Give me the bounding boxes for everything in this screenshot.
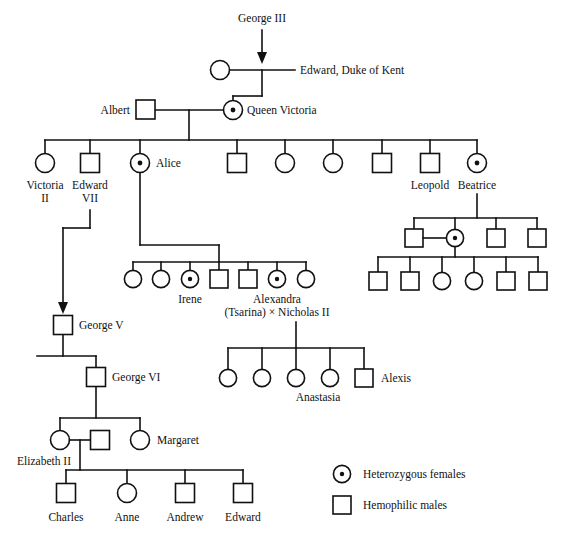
label-george-v: George V <box>79 319 124 332</box>
symbol-circle-elizabeth-ii <box>51 431 70 450</box>
symbol-square-hatched-leopold <box>421 154 440 173</box>
legend-label-heterozygous-females: Heterozygous females <box>363 468 466 481</box>
label-victoria-ii-line2: II <box>41 192 49 204</box>
romanov-children-group: Anastasia Alexis <box>219 348 411 403</box>
symbol-square-hatched-alexis <box>355 369 373 387</box>
legend-label-hemophilic-males: Hemophilic males <box>363 499 448 512</box>
symbol-square-hatched-beatrice-child-4 <box>528 229 546 247</box>
label-leopold: Leopold <box>411 179 450 192</box>
label-alexandra: Alexandra <box>253 293 301 305</box>
symbol-square-george-v <box>54 316 73 335</box>
symbol-square-edward <box>234 484 253 503</box>
label-margaret: Margaret <box>157 434 200 447</box>
generation-3-group: Victoria II Edward VII Alice <box>27 140 497 314</box>
label-alexis: Alexis <box>381 372 412 384</box>
label-albert: Albert <box>101 104 131 116</box>
label-alexandra-marriage: (Tsarina) × Nicholas II <box>225 306 330 319</box>
symbol-square-beatrice-grandchild-5 <box>497 272 515 290</box>
symbol-square-albert <box>136 100 155 119</box>
symbol-circle-romanov-child-3 <box>287 369 304 386</box>
symbol-circle-anne <box>118 484 137 503</box>
symbol-circle-margaret <box>131 431 150 450</box>
pedigree-diagram: George III Edward, Duke of Kent Albert Q… <box>0 0 563 552</box>
label-anne: Anne <box>115 511 140 523</box>
symbol-circle-romanov-child-1 <box>219 369 236 386</box>
label-queen-victoria: Queen Victoria <box>247 104 317 116</box>
george-iii-arrow-head <box>257 52 267 64</box>
label-victoria-ii-line1: Victoria <box>27 179 64 191</box>
legend: Heterozygous females Hemophilic males <box>333 465 466 514</box>
label-anastasia: Anastasia <box>296 391 341 403</box>
carrier-dot-beatrice <box>475 161 480 166</box>
label-charles: Charles <box>48 511 84 523</box>
british-line-group: George V George VI Elizabeth II Margaret <box>17 316 200 471</box>
symbol-circle-victoria-ii <box>36 154 55 173</box>
beatrice-children-group <box>405 218 546 257</box>
symbol-circle-beatrice-grandchild-4 <box>465 272 482 289</box>
label-edward-duke-of-kent: Edward, Duke of Kent <box>300 64 405 77</box>
elizabeth-children-group: Charles Anne Andrew Edward <box>48 470 261 523</box>
symbol-circle-beatrice-grandchild-3 <box>433 272 450 289</box>
symbol-circle-romanov-child-2 <box>253 369 270 386</box>
symbol-circle-gen3-daughter-2 <box>324 154 343 173</box>
label-andrew: Andrew <box>166 511 204 523</box>
alice-children-group: Irene Alexandra (Tsarina) × Nicholas II <box>124 262 329 348</box>
pedigree-chart: George III Edward, Duke of Kent Albert Q… <box>0 0 563 552</box>
symbol-circle-gen3-daughter-1 <box>276 154 295 173</box>
carrier-dot-alice <box>138 161 143 166</box>
symbol-square-hatched-beatrice-grandchild-1 <box>369 272 387 290</box>
label-edward: Edward <box>225 511 261 523</box>
symbol-square-andrew <box>176 484 195 503</box>
symbol-square-charles <box>57 484 76 503</box>
label-beatrice: Beatrice <box>458 179 496 191</box>
label-alice: Alice <box>156 157 181 169</box>
carrier-dot-alexandra <box>275 277 279 281</box>
symbol-square-hatched-beatrice-grandchild-6 <box>529 272 547 290</box>
symbol-square-george-vi <box>87 368 106 387</box>
symbol-square-hatched-beatrice-child-3 <box>487 229 505 247</box>
legend-hemophilic-male-icon <box>333 496 351 514</box>
carrier-dot-beatrice-child-2 <box>453 236 457 240</box>
symbol-circle-alice-child-7 <box>297 270 314 287</box>
symbol-square-gen3-son-1 <box>228 154 247 173</box>
label-edward-vii-line1: Edward <box>72 179 108 191</box>
symbol-square-gen3-son-2 <box>373 154 392 173</box>
george-v-arrow-head <box>58 302 68 314</box>
label-edward-vii-line2: VII <box>82 192 98 204</box>
label-irene: Irene <box>178 293 202 305</box>
generation-1-group: George III Edward, Duke of Kent <box>211 12 405 96</box>
legend-carrier-dot-icon <box>340 472 344 476</box>
carrier-dot-queen-victoria <box>231 108 236 113</box>
symbol-square-edward-vii <box>81 154 100 173</box>
symbol-square-hatched-alice-child-5 <box>239 270 257 288</box>
generation-2-group: Albert Queen Victoria <box>101 96 317 140</box>
label-elizabeth-ii: Elizabeth II <box>17 455 71 467</box>
symbol-circle-alice-child-1 <box>124 270 141 287</box>
label-george-vi: George VI <box>112 371 161 384</box>
symbol-circle-anastasia <box>321 369 338 386</box>
symbol-square-elizabeth-spouse <box>91 431 110 450</box>
symbol-square-alice-child-4 <box>210 270 228 288</box>
symbol-square-beatrice-child-1 <box>405 229 423 247</box>
label-george-iii: George III <box>238 12 286 25</box>
symbol-circle-alice-child-2 <box>152 270 169 287</box>
symbol-circle-gen1-female <box>211 61 230 80</box>
symbol-square-beatrice-grandchild-2 <box>401 272 419 290</box>
beatrice-grandchildren-group <box>369 257 547 290</box>
carrier-dot-irene <box>188 277 192 281</box>
